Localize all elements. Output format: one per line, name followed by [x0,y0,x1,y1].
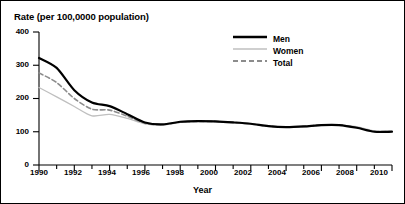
plot-area [1,1,404,203]
data-series [39,58,392,132]
x-tick-marks [39,165,392,171]
legend-swatches [233,37,267,61]
chart-figure: Rate (per 100,0000 population) 400 300 2… [1,1,404,203]
y-tick-marks [33,32,39,165]
series-line-men [39,58,392,132]
axes [33,32,392,171]
